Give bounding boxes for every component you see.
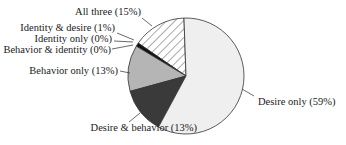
pie-slices (128, 18, 244, 134)
label-desire-behavior: Desire & behavior (13%) (91, 122, 198, 134)
label-behavior-only: Behavior only (13%) (29, 65, 118, 77)
pie-chart: All three (15%) Identity & desire (1%) I… (0, 0, 346, 145)
label-desire-only: Desire only (59%) (258, 96, 336, 108)
label-behavior-identity: Behavior & identity (0%) (3, 44, 111, 56)
label-all-three: All three (15%) (75, 6, 141, 18)
